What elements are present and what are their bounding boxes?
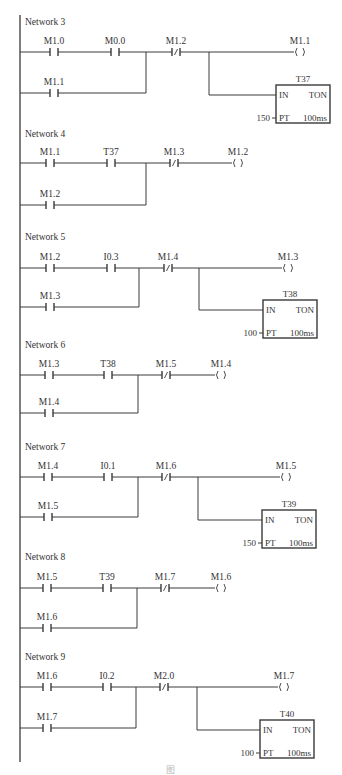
contact-address: M1.3: [39, 359, 60, 369]
contact-address: I0.1: [100, 461, 115, 471]
network-4: Network 4M1.1T37M1.3M1.2M1.2: [20, 129, 248, 209]
network-8: Network 8M1.5T39M1.7M1.6M1.6: [20, 552, 231, 632]
timer-in-pin: IN: [279, 90, 289, 100]
normally-open-contact: M1.1: [40, 147, 61, 167]
normally-open-contact: M1.5: [37, 572, 58, 592]
output-coil: M1.6: [211, 572, 232, 592]
coil-address: M1.3: [278, 252, 299, 262]
network-5: Network 5M1.2I0.3M1.4M1.3M1.3T38INTONPT1…: [20, 232, 317, 338]
timer-in-pin: IN: [266, 305, 276, 315]
contact-address: M1.6: [156, 461, 177, 471]
output-coil: M1.7: [274, 671, 295, 691]
contact-address: M1.6: [37, 671, 58, 681]
contact-address: M1.0: [44, 36, 65, 46]
normally-closed-contact: M2.0: [154, 671, 175, 691]
normally-closed-contact: M1.2: [166, 36, 187, 56]
network-title: Network 8: [25, 552, 66, 562]
output-coil: M1.2: [228, 147, 249, 167]
output-coil: M1.1: [290, 36, 311, 56]
normally-open-contact: M1.4: [38, 461, 59, 481]
normally-open-contact: I0.2: [99, 671, 114, 691]
contact-address: T38: [100, 359, 116, 369]
normally-open-contact: M1.5: [38, 501, 59, 521]
contact-address: M1.4: [38, 461, 59, 471]
timer-preset: 100: [241, 748, 255, 758]
normally-open-contact: T38: [100, 359, 116, 379]
timer-name: T40: [280, 709, 295, 719]
timer-base: 100ms: [290, 328, 315, 338]
timer-pt-pin: PT: [266, 328, 277, 338]
contact-address: M1.7: [37, 712, 58, 722]
normally-closed-contact: M1.5: [156, 359, 177, 379]
network-title: Network 5: [25, 232, 66, 242]
contact-address: I0.3: [103, 252, 118, 262]
contact-address: M1.1: [40, 147, 61, 157]
timer-preset: 150: [243, 538, 257, 548]
timer-block-t37: T37INTONPT100ms150: [209, 52, 330, 123]
timer-block-t40: T40INTONPT100ms100: [197, 687, 314, 758]
timer-pt-pin: PT: [263, 748, 274, 758]
coil-address: M1.4: [211, 359, 232, 369]
normally-closed-contact: M1.4: [158, 252, 179, 272]
timer-in-pin: IN: [265, 515, 275, 525]
contact-address: M1.5: [156, 359, 177, 369]
timer-type: TON: [296, 305, 315, 315]
normally-open-contact: T37: [103, 147, 119, 167]
timer-pt-pin: PT: [265, 538, 276, 548]
contact-address: M1.2: [40, 252, 61, 262]
normally-open-contact: M1.0: [44, 36, 65, 56]
timer-name: T37: [296, 74, 311, 84]
contact-address: M1.5: [38, 501, 59, 511]
network-title: Network 6: [25, 340, 66, 350]
coil-address: M1.2: [228, 147, 249, 157]
coil-address: M1.6: [211, 572, 232, 582]
contact-address: M1.7: [155, 572, 176, 582]
contact-address: I0.2: [99, 671, 114, 681]
timer-base: 100ms: [289, 538, 314, 548]
normally-open-contact: M0.0: [105, 36, 126, 56]
network-9: Network 9M1.6I0.2M2.0M1.7M1.7T40INTONPT1…: [20, 652, 314, 758]
network-3: Network 3M1.0M0.0M1.2M1.1M1.1T37INTONPT1…: [20, 17, 330, 123]
normally-open-contact: I0.3: [103, 252, 118, 272]
normally-open-contact: M1.6: [37, 612, 58, 632]
ladder-diagram: Network 3M1.0M0.0M1.2M1.1M1.1T37INTONPT1…: [0, 0, 342, 775]
normally-open-contact: T39: [99, 572, 115, 592]
contact-address: M1.3: [40, 291, 61, 301]
contact-address: T39: [99, 572, 115, 582]
output-coil: M1.4: [211, 359, 232, 379]
normally-closed-contact: M1.6: [156, 461, 177, 481]
contact-address: M1.1: [44, 77, 65, 87]
timer-block-t38: T38INTONPT100ms100: [199, 268, 317, 338]
normally-open-contact: M1.4: [39, 397, 60, 417]
normally-open-contact: M1.1: [44, 77, 65, 97]
timer-base: 100ms: [287, 748, 312, 758]
normally-open-contact: I0.1: [100, 461, 115, 481]
output-coil: M1.3: [278, 252, 299, 272]
timer-preset: 100: [244, 328, 258, 338]
normally-open-contact: M1.2: [40, 189, 61, 209]
contact-address: T37: [103, 147, 119, 157]
contact-address: M1.2: [40, 189, 61, 199]
figure-caption: 图: [0, 763, 342, 775]
contact-address: M1.4: [39, 397, 60, 407]
contact-address: M0.0: [105, 36, 126, 46]
coil-address: M1.5: [276, 461, 297, 471]
timer-name: T39: [282, 499, 297, 509]
normally-open-contact: M1.3: [39, 359, 60, 379]
coil-address: M1.1: [290, 36, 311, 46]
network-7: Network 7M1.4I0.1M1.6M1.5M1.5T39INTONPT1…: [20, 442, 316, 548]
normally-open-contact: M1.3: [40, 291, 61, 311]
timer-in-pin: IN: [263, 725, 273, 735]
contact-address: M1.4: [158, 252, 179, 262]
timer-type: TON: [309, 90, 328, 100]
normally-open-contact: M1.2: [40, 252, 61, 272]
contact-address: M1.3: [164, 147, 185, 157]
timer-type: TON: [295, 515, 314, 525]
normally-open-contact: M1.7: [37, 712, 58, 732]
contact-address: M1.5: [37, 572, 58, 582]
normally-closed-contact: M1.7: [155, 572, 176, 592]
timer-base: 100ms: [303, 113, 328, 123]
timer-name: T38: [283, 289, 298, 299]
timer-type: TON: [293, 725, 312, 735]
network-title: Network 9: [25, 652, 66, 662]
